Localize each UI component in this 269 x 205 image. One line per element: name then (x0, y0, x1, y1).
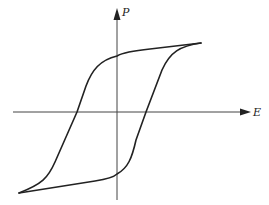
p-axis-label: P (121, 6, 130, 19)
hysteresis-upper-branch (19, 43, 201, 193)
hysteresis-diagram: P E (0, 0, 269, 205)
e-axis-label: E (252, 106, 261, 119)
e-axis-arrow-icon (240, 109, 251, 116)
p-axis-arrow-icon (114, 8, 121, 20)
hysteresis-lower-branch (19, 43, 201, 193)
